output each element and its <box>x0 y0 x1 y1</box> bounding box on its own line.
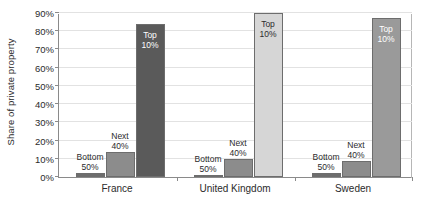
y-axis-tick-label: 60% <box>18 64 54 74</box>
bar[interactable] <box>76 173 105 177</box>
bar-value-label: Top10% <box>245 19 291 39</box>
bar[interactable] <box>194 175 223 177</box>
plot-area: Bottom50%Next40%Top10%Bottom50%Next40%To… <box>58 14 412 178</box>
x-axis-tick-mark <box>177 177 178 181</box>
bar[interactable] <box>312 173 341 177</box>
bar-value-label: Top10% <box>363 24 409 44</box>
y-axis-tick-label: 50% <box>18 82 54 92</box>
bar-group: Bottom50%Next40%Top10% <box>59 13 177 177</box>
y-axis-tick-label: 30% <box>18 119 54 129</box>
x-axis-category-label: France <box>58 182 176 195</box>
y-axis-tick-label: 80% <box>18 27 54 37</box>
x-axis-category-label: United Kingdom <box>176 182 294 195</box>
bar[interactable] <box>224 159 253 177</box>
y-axis-tick-label: 40% <box>18 100 54 110</box>
bar-label-line2: 10% <box>127 40 173 50</box>
bar[interactable] <box>342 161 371 177</box>
y-axis-tick-label: 70% <box>18 46 54 56</box>
y-axis-tick-label: 0% <box>18 173 54 183</box>
y-axis-tick-labels: 0%10%20%30%40%50%60%70%80%90% <box>18 14 54 178</box>
y-axis-tick-label: 90% <box>18 9 54 19</box>
y-axis-tick-label: 20% <box>18 137 54 147</box>
x-axis-category-labels: FranceUnited KingdomSweden <box>58 182 412 202</box>
bar-group: Bottom50%Next40%Top10% <box>177 13 295 177</box>
x-axis-tick-mark <box>295 177 296 181</box>
y-axis-tick-label: 10% <box>18 155 54 165</box>
bar-label-line2: 10% <box>363 34 409 44</box>
bar[interactable] <box>106 152 135 178</box>
bar-group: Bottom50%Next40%Top10% <box>295 13 413 177</box>
bar-label-line1: Top <box>245 19 291 29</box>
x-axis-category-label: Sweden <box>294 182 412 195</box>
bar-value-label: Top10% <box>127 30 173 50</box>
bar-label-line1: Top <box>363 24 409 34</box>
bar-label-line2: 10% <box>245 29 291 39</box>
bar-chart: Share of private property 0%10%20%30%40%… <box>0 0 421 208</box>
x-axis-tick-mark <box>412 177 413 181</box>
bar-label-line1: Top <box>127 30 173 40</box>
